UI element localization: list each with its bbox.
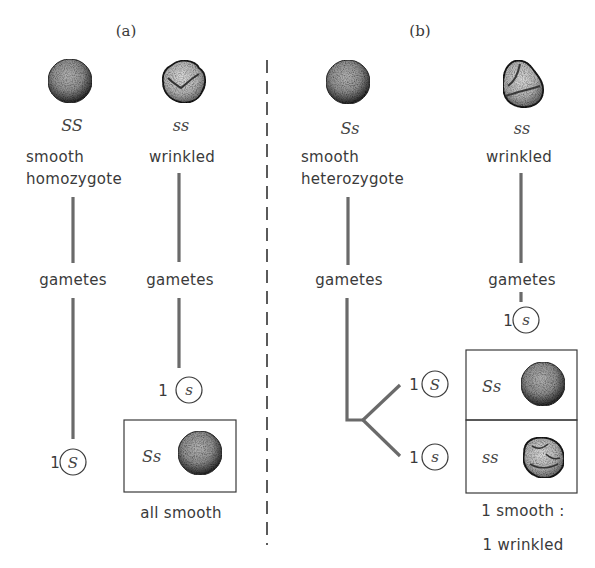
branch-stem — [347, 298, 364, 420]
gamete-allele: s — [431, 448, 439, 466]
offspring-box-ss-wrinkled: ss — [466, 420, 577, 493]
parent-ss-wrinkled: ss wrinkled — [486, 61, 552, 166]
genotype-label: Ss — [340, 119, 359, 138]
wrinkled-seed-icon — [163, 61, 205, 103]
gamete-count: 1 — [409, 376, 419, 394]
gametes-label: gametes — [39, 271, 107, 289]
zygosity-label: heterozygote — [301, 170, 404, 188]
gametes-label: gametes — [488, 271, 556, 289]
smooth-seed-icon — [48, 59, 92, 103]
genotype-label: ss — [173, 116, 189, 135]
phenotype-label: wrinkled — [149, 148, 215, 166]
monohybrid-cross-diagram: (a) SS smooth homozygote ss wrinkled gam… — [0, 0, 595, 568]
gametes-label: gametes — [315, 271, 383, 289]
gamete-allele: S — [68, 454, 78, 472]
offspring-box-ss-smooth: Ss — [466, 350, 577, 420]
gamete-allele: S — [430, 376, 440, 394]
phenotype-label: smooth — [301, 148, 359, 166]
result-ratio-line2: 1 wrinkled — [482, 536, 563, 554]
smooth-seed-icon — [326, 60, 370, 104]
gamete-bottom-s: 1 s — [409, 444, 448, 470]
genotype-label: SS — [61, 116, 83, 135]
gamete-s-dominant: 1 S — [50, 449, 86, 475]
branch-down — [363, 420, 400, 456]
phenotype-label: smooth — [26, 148, 84, 166]
gamete-s-recessive: 1 s — [158, 377, 202, 403]
gametes-label: gametes — [146, 271, 214, 289]
parent-ss-wrinkled: ss wrinkled — [149, 61, 215, 166]
gamete-count: 1 — [158, 382, 168, 400]
gamete-top-S: 1 S — [409, 371, 448, 397]
smooth-seed-icon — [178, 431, 222, 475]
gamete-allele: s — [522, 311, 530, 329]
offspring-genotype: Ss — [482, 377, 501, 396]
panel-a-label: (a) — [116, 22, 137, 40]
phenotype-label: wrinkled — [486, 148, 552, 166]
panel-b: (b) Ss smooth heterozygote ss wrinkled g… — [301, 22, 577, 554]
offspring-box: Ss — [124, 420, 236, 492]
parent-ss-smooth: SS smooth homozygote — [26, 59, 122, 188]
smooth-seed-icon — [521, 362, 565, 406]
gamete-allele: s — [185, 381, 193, 399]
gamete-count: 1 — [409, 449, 419, 467]
gamete-count: 1 — [503, 312, 513, 330]
parent-ss-heterozygote: Ss smooth heterozygote — [301, 60, 404, 188]
zygosity-label: homozygote — [26, 170, 122, 188]
result-ratio: all smooth — [140, 504, 221, 522]
gamete-count: 1 — [50, 454, 60, 472]
gamete-right-s: 1 s — [503, 307, 539, 333]
panel-b-label: (b) — [409, 22, 430, 40]
genotype-label: ss — [514, 119, 530, 138]
result-ratio-line1: 1 smooth : — [481, 502, 564, 520]
wrinkled-seed-icon — [503, 61, 543, 108]
branch-up — [363, 385, 400, 420]
offspring-genotype: ss — [482, 448, 498, 467]
offspring-genotype: Ss — [142, 447, 161, 466]
panel-a: (a) SS smooth homozygote ss wrinkled gam… — [26, 22, 236, 522]
